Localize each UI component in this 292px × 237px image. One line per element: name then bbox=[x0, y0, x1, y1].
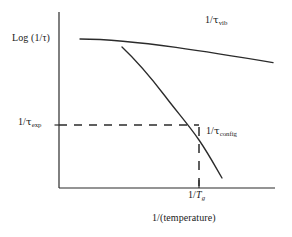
figure-container: Log (1/τ) 1/τexp 1/τvib 1/τconfig 1/Tg 1… bbox=[0, 0, 292, 237]
curve-label-tau-config: 1/τconfig bbox=[206, 126, 237, 137]
tg-subscript: g bbox=[202, 194, 205, 201]
tg-prefix: 1/ bbox=[188, 189, 196, 200]
tau-config-subscript: config bbox=[220, 130, 237, 137]
curve-tau-config bbox=[122, 47, 222, 178]
y-tick-label-tau-exp: 1/τexp bbox=[18, 117, 41, 128]
tg-symbol: T bbox=[196, 189, 202, 200]
curve-tau-vib bbox=[80, 39, 273, 63]
tau-vib-subscript: vib bbox=[219, 19, 228, 26]
tau-exp-prefix: 1/ bbox=[18, 116, 26, 127]
tau-vib-prefix: 1/ bbox=[205, 14, 213, 25]
x-axis-label: 1/(temperature) bbox=[152, 213, 216, 224]
tau-exp-symbol: τ bbox=[26, 116, 32, 127]
tau-exp-subscript: exp bbox=[32, 121, 42, 128]
tau-config-prefix: 1/ bbox=[206, 125, 214, 136]
y-axis-label-text: Log (1/τ) bbox=[12, 32, 50, 43]
tau-config-symbol: τ bbox=[214, 125, 220, 136]
x-axis-label-text: 1/(temperature) bbox=[152, 212, 216, 223]
curve-label-tau-vib: 1/τvib bbox=[205, 15, 227, 26]
x-tick-label-tg: 1/Tg bbox=[188, 190, 205, 201]
y-axis-label: Log (1/τ) bbox=[12, 33, 50, 44]
tau-vib-symbol: τ bbox=[213, 14, 219, 25]
